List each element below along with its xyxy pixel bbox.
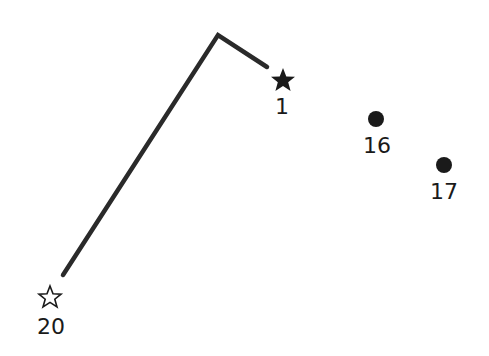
- dot-16[interactable]: [368, 111, 384, 127]
- puzzle-canvas: [0, 0, 489, 356]
- start-star-icon[interactable]: [271, 68, 295, 91]
- dot-17[interactable]: [436, 157, 452, 173]
- drawn-line: [63, 35, 267, 275]
- point-label-20: 20: [37, 316, 65, 338]
- point-label-17: 17: [430, 181, 458, 203]
- point-label-1: 1: [275, 96, 289, 118]
- point-label-16: 16: [363, 135, 391, 157]
- end-star-icon[interactable]: [39, 286, 61, 307]
